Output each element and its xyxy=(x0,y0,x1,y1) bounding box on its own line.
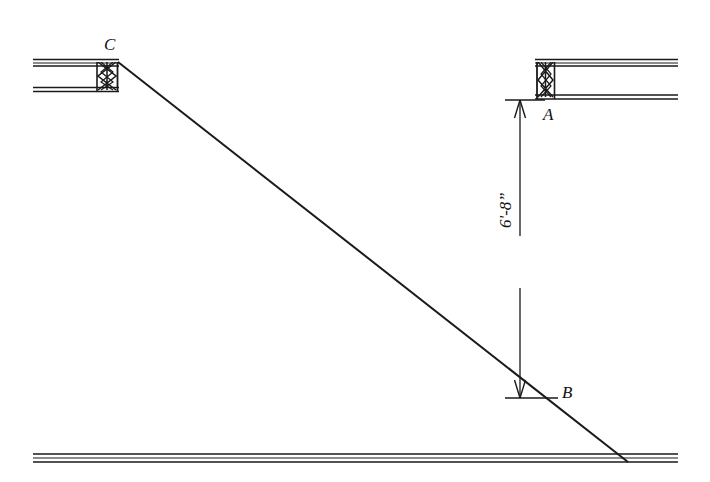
label-point-a: A xyxy=(543,106,553,123)
label-point-c: C xyxy=(104,36,115,53)
technical-diagram: C A B 6'-8” xyxy=(0,0,710,482)
diagram-canvas xyxy=(0,0,710,482)
label-point-b: B xyxy=(562,384,572,401)
dimension-label: 6'-8” xyxy=(497,192,514,228)
